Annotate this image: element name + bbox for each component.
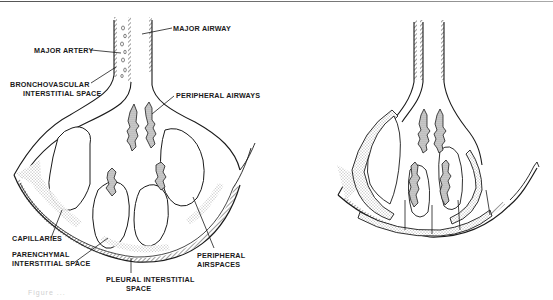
label-major-airway: MAJOR AIRWAY bbox=[173, 24, 231, 33]
label-capillaries: CAPILLARIES bbox=[12, 234, 62, 243]
label-major-artery: MAJOR ARTERY bbox=[34, 46, 93, 55]
label-bronchovascular-line1: BRONCHOVASCULAR bbox=[10, 80, 90, 89]
right-lung-unit bbox=[337, 20, 539, 237]
lung-diagrams bbox=[0, 0, 553, 300]
label-peripheral-airways: PERIPHERAL AIRWAYS bbox=[176, 91, 260, 100]
label-parenchymal-line2: INTERSTITIAL SPACE bbox=[12, 259, 90, 268]
label-pleural-line2: SPACE bbox=[126, 284, 151, 293]
label-pleural-line1: PLEURAL INTERSTITIAL bbox=[106, 275, 195, 284]
figure-caption-fragment: Figure ... bbox=[28, 289, 66, 296]
label-parenchymal-line1: PARENCHYMAL bbox=[12, 250, 70, 259]
label-peripheral-airspaces-line2: AIRSPACES bbox=[197, 260, 240, 269]
label-bronchovascular-line2: INTERSTITIAL SPACE bbox=[23, 89, 101, 98]
label-peripheral-airspaces-line1: PERIPHERAL bbox=[197, 251, 245, 260]
